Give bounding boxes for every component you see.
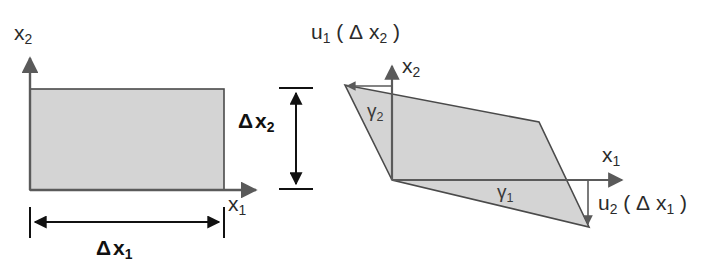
delta-x2-label: Δx2 bbox=[238, 110, 275, 135]
delta-x1-label: Δx1 bbox=[96, 237, 133, 262]
x1-axis-label-right: x1 bbox=[602, 144, 620, 169]
gamma-1-label: γ1 bbox=[497, 182, 513, 205]
delta-x2-dimension bbox=[279, 88, 313, 189]
u2-displacement-label: u2 ( Δ x1 ) bbox=[598, 192, 687, 217]
delta-x1-dimension bbox=[30, 207, 224, 238]
undeformed-rectangle-group bbox=[30, 89, 224, 190]
x1-axis-label-left: x1 bbox=[228, 193, 246, 218]
deformation-figure: x2 x1 Δx2 Δx1 u1 ( Δ x2 ) x2 x1 u2 ( Δ x… bbox=[0, 0, 703, 266]
x2-axis-label-right: x2 bbox=[402, 55, 420, 80]
undeformed-rectangle bbox=[30, 89, 224, 190]
u1-displacement-label: u1 ( Δ x2 ) bbox=[311, 21, 400, 46]
gamma-2-label: γ2 bbox=[367, 101, 383, 124]
x2-axis-label-left: x2 bbox=[14, 22, 32, 47]
